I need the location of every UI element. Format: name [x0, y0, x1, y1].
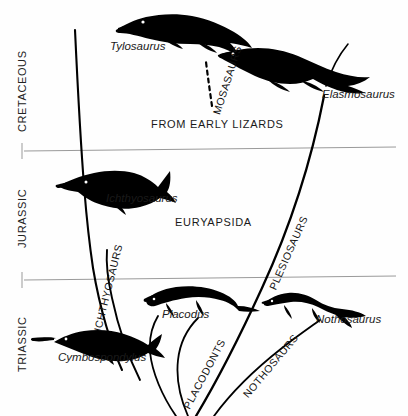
genus-label-ichthyosaurus: Ichthyosaurus: [106, 192, 178, 204]
jurassic-triassic-divider: [24, 276, 396, 280]
cretaceous-jurassic-divider: [24, 147, 396, 151]
period-label-triassic: TRIASSIC: [16, 316, 28, 372]
placodonts-branch: [150, 316, 176, 416]
genus-label-cymbospondylus: Cymbospondylus: [58, 351, 146, 363]
period-label-jurassic: JURASSIC: [16, 189, 28, 248]
marine-reptile-evolution-diagram: CRETACEOUS JURASSIC TRIASSIC FROM EARLY …: [0, 0, 408, 416]
mosasaurs-branch: [206, 62, 212, 106]
from-early-lizards-label: FROM EARLY LIZARDS: [151, 118, 284, 130]
genus-label-elasmosaurus: Elasmosaurus: [322, 88, 395, 100]
period-label-cretaceous: CRETACEOUS: [16, 50, 28, 132]
period-divider-lines: [24, 147, 396, 280]
genus-label-nothosaurus: Nothosaurus: [316, 313, 381, 325]
euryapsida-label: EURYAPSIDA: [175, 216, 252, 228]
genus-label-placodus: Placodus: [162, 308, 209, 320]
genus-label-tylosaurus: Tylosaurus: [110, 40, 165, 52]
